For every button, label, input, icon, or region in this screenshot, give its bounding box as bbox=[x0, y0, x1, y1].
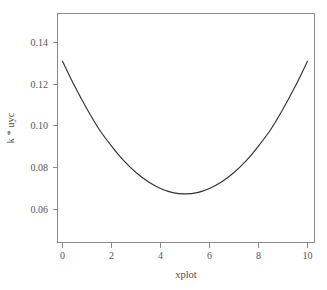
x-tick-label-2: 4 bbox=[158, 250, 163, 261]
y-tick-label-2: 0.10 bbox=[31, 120, 49, 131]
x-tick-label-3: 6 bbox=[207, 250, 212, 261]
y-tick-label-4: 0.14 bbox=[31, 37, 49, 48]
plot-frame bbox=[58, 14, 315, 243]
y-axis-tick-labels: 0.06 0.08 0.10 0.12 0.14 bbox=[31, 37, 49, 215]
plot-canvas: 0.06 0.08 0.10 0.12 0.14 0 2 4 6 8 10 xp… bbox=[0, 0, 327, 290]
y-tick-label-0: 0.06 bbox=[31, 204, 49, 215]
chart-figure: 0.06 0.08 0.10 0.12 0.14 0 2 4 6 8 10 xp… bbox=[0, 0, 327, 290]
y-axis-ticks bbox=[53, 43, 58, 210]
x-axis-tick-labels: 0 2 4 6 8 10 bbox=[60, 250, 313, 261]
x-tick-label-1: 2 bbox=[109, 250, 114, 261]
y-tick-label-3: 0.12 bbox=[31, 79, 49, 90]
x-tick-label-4: 8 bbox=[256, 250, 261, 261]
data-series-line bbox=[63, 61, 308, 194]
x-tick-label-0: 0 bbox=[60, 250, 65, 261]
x-tick-label-5: 10 bbox=[303, 250, 313, 261]
x-axis-ticks bbox=[63, 243, 308, 248]
x-axis-title: xplot bbox=[175, 269, 197, 280]
y-tick-label-1: 0.08 bbox=[31, 162, 49, 173]
y-axis-title: k * uyc bbox=[5, 112, 16, 143]
